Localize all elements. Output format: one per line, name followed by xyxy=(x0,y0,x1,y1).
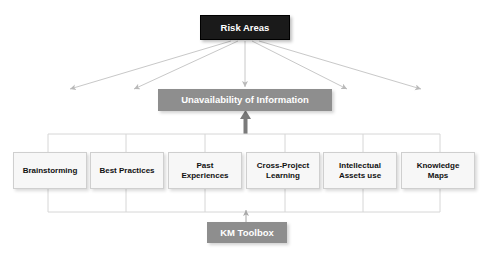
node-tool-knowledge-maps: Knowledge Maps xyxy=(401,152,475,189)
lower-bracket xyxy=(48,189,440,212)
risk-areas-label: Risk Areas xyxy=(221,22,270,34)
node-tool-intellectual-assets-use: Intellectual Assets use xyxy=(323,152,397,189)
tool-label: Past Experiences xyxy=(181,161,228,181)
fanout-arrow-4 xyxy=(252,41,347,89)
tool-label: Brainstorming xyxy=(23,166,78,176)
tool-label: Cross-Project Learning xyxy=(257,161,309,181)
fanout-arrow-5 xyxy=(259,41,421,89)
node-risk-areas: Risk Areas xyxy=(200,15,290,40)
node-tool-cross-project-learning: Cross-Project Learning xyxy=(246,152,320,189)
km-toolbox-label: KM Toolbox xyxy=(220,227,274,239)
diagram-canvas: Risk Areas Unavailability of Information… xyxy=(0,0,491,258)
fanout-arrow-2 xyxy=(134,41,238,89)
fanout-arrow-1 xyxy=(70,41,231,89)
node-tool-past-experiences: Past Experiences xyxy=(168,152,242,189)
node-unavailability-of-information: Unavailability of Information xyxy=(158,89,332,111)
risk-emphasis-arrow xyxy=(240,110,251,134)
node-km-toolbox: KM Toolbox xyxy=(207,222,287,243)
node-tool-best-practices: Best Practices xyxy=(90,152,164,189)
node-tool-brainstorming: Brainstorming xyxy=(13,152,87,189)
tool-label: Knowledge Maps xyxy=(417,161,460,181)
tool-label: Best Practices xyxy=(99,166,154,176)
unavailability-label: Unavailability of Information xyxy=(181,94,309,106)
tool-label: Intellectual Assets use xyxy=(339,161,381,181)
